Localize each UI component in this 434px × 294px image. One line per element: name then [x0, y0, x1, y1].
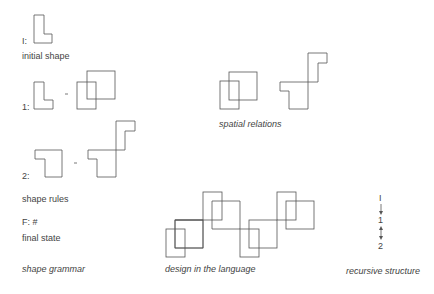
recursive-structure-caption: recursive structure	[346, 267, 420, 276]
initial-label: I:	[22, 37, 27, 46]
design-caption: design in the language	[165, 265, 256, 274]
final-caption: final state	[22, 234, 61, 243]
rule2-lhs-shape	[35, 150, 62, 177]
spatial-upper-l-shape	[308, 53, 327, 82]
design-composition	[166, 192, 314, 257]
rule2-label: 2:	[22, 172, 30, 181]
rule1-lhs-l-shape	[34, 82, 53, 109]
spatial-large-rect	[229, 72, 257, 100]
rule1-rhs-small-rect	[77, 82, 96, 109]
rule1-label: 1:	[22, 103, 30, 112]
spatial-lower-l-shape	[280, 82, 308, 109]
rules-caption: shape rules	[22, 195, 69, 204]
rule2-rhs-shape	[88, 150, 116, 177]
rule1-rhs-large-rect	[87, 71, 115, 99]
initial-caption: initial shape	[22, 52, 70, 61]
recursive-item-2: 2	[378, 242, 383, 251]
recursive-item-1: 1	[378, 216, 383, 225]
recursive-item-i: I	[379, 194, 382, 203]
rule2-rhs-top-shape	[116, 121, 135, 150]
spatial-relations-caption: spatial relations	[219, 120, 282, 129]
shape-grammar-title: shape grammar	[22, 265, 85, 274]
initial-l-shape	[34, 15, 52, 43]
final-label: F: #	[22, 218, 38, 227]
diagram-canvas	[0, 0, 434, 294]
spatial-small-rect	[220, 81, 239, 109]
